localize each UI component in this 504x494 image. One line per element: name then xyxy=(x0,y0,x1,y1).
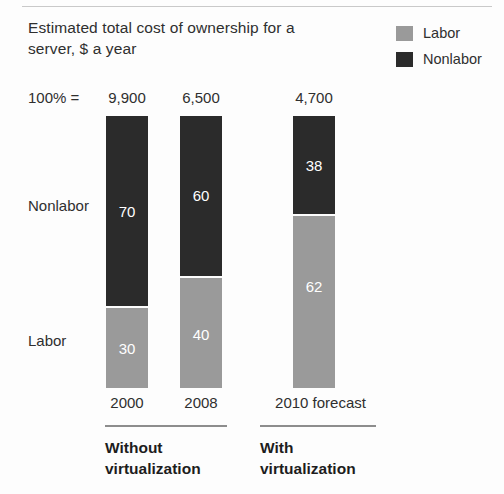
row-label-nonlabor: Nonlabor xyxy=(28,197,89,214)
x-label-2010-forecast: 2010 forecast xyxy=(258,394,383,411)
bar-value-labor-2010: 62 xyxy=(293,278,335,295)
bar-segment-labor-2010: 62 xyxy=(293,216,335,388)
bar-2008: 60 40 xyxy=(180,116,222,388)
x-label-2008: 2008 xyxy=(168,394,234,411)
bar-value-nonlabor-2008: 60 xyxy=(180,187,222,204)
group-label-without-virtualization: Without virtualization xyxy=(105,437,201,479)
group-rule-with-virtualization xyxy=(260,425,376,427)
bar-value-labor-2008: 40 xyxy=(180,326,222,343)
bar-value-labor-2000: 30 xyxy=(106,340,148,357)
group-label-without-line1: Without xyxy=(105,437,201,458)
group-label-with-line2: virtualization xyxy=(260,458,356,479)
bar-segment-labor-2000: 30 xyxy=(106,308,148,388)
bar-value-nonlabor-2000: 70 xyxy=(106,203,148,220)
bar-2010-forecast: 38 62 xyxy=(293,116,335,388)
row-label-labor: Labor xyxy=(28,332,66,349)
bar-2000: 70 30 xyxy=(106,116,148,388)
x-label-2000: 2000 xyxy=(94,394,160,411)
group-label-without-line2: virtualization xyxy=(105,458,201,479)
chart-figure: Estimated total cost of ownership for a … xyxy=(0,0,504,494)
group-label-with-line1: With xyxy=(260,437,356,458)
bar-segment-nonlabor-2000: 70 xyxy=(106,116,148,306)
bar-segment-nonlabor-2010: 38 xyxy=(293,116,335,214)
bar-value-nonlabor-2010: 38 xyxy=(293,157,335,174)
group-label-with-virtualization: With virtualization xyxy=(260,437,356,479)
bar-segment-labor-2008: 40 xyxy=(180,278,222,388)
group-rule-without-virtualization xyxy=(105,425,227,427)
plot-area: Nonlabor Labor 70 30 60 40 38 xyxy=(0,0,504,494)
bar-segment-nonlabor-2008: 60 xyxy=(180,116,222,276)
